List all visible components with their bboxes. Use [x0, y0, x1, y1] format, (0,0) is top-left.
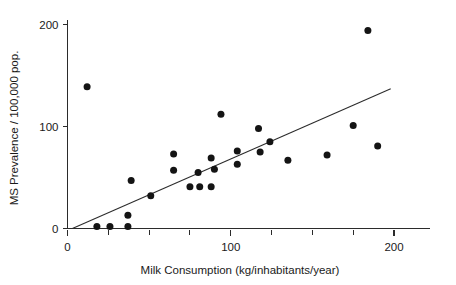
y-tick-label: 100 [39, 121, 58, 133]
data-point [374, 142, 381, 149]
data-point [284, 157, 291, 164]
y-axis-label: MS Prevalence / 100,000 pop. [8, 51, 20, 206]
data-point [170, 167, 177, 174]
data-point [195, 169, 202, 176]
data-point [147, 192, 154, 199]
data-point [106, 223, 113, 230]
data-point [128, 177, 135, 184]
trend-line-group [72, 89, 390, 229]
axes-group [68, 20, 431, 229]
y-axis-ticks: 0100200 [39, 19, 67, 235]
x-tick-label: 100 [221, 241, 240, 253]
regression-line [72, 89, 390, 229]
y-tick-label: 0 [52, 223, 58, 235]
data-point [324, 152, 331, 159]
data-point [350, 122, 357, 129]
x-tick-label: 0 [64, 241, 70, 253]
data-points-group [84, 27, 382, 230]
data-point [84, 83, 91, 90]
data-point [211, 166, 218, 173]
data-point [208, 183, 215, 190]
data-point [255, 125, 262, 132]
data-point [257, 149, 264, 156]
data-point [124, 212, 131, 219]
data-point [124, 223, 131, 230]
data-point [208, 155, 215, 162]
data-point [234, 147, 241, 154]
scatter-chart: 0100200 0100200 Milk Consumption (kg/inh… [0, 0, 456, 285]
data-point [170, 151, 177, 158]
x-tick-label: 200 [384, 241, 403, 253]
data-point [217, 111, 224, 118]
data-point [196, 183, 203, 190]
plot-canvas: 0100200 0100200 Milk Consumption (kg/inh… [0, 0, 456, 285]
data-point [93, 223, 100, 230]
data-point [186, 183, 193, 190]
data-point [234, 161, 241, 168]
y-tick-label: 200 [39, 19, 58, 31]
x-axis-ticks: 0100200 [64, 230, 403, 253]
data-point [364, 27, 371, 34]
x-axis-label: Milk Consumption (kg/inhabitants/year) [141, 264, 340, 276]
data-point [266, 138, 273, 145]
